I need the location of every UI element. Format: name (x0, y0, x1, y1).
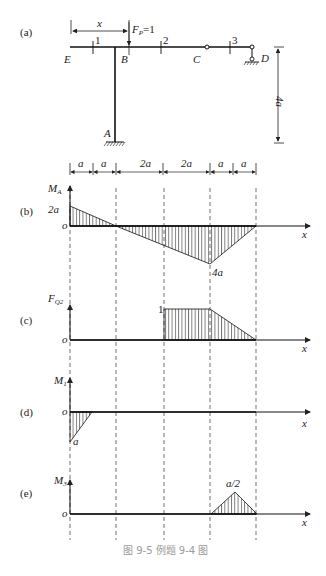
dim-5: a (241, 157, 247, 169)
panel-label-e: (e) (20, 487, 33, 500)
dim-1: a (101, 157, 107, 169)
section-3: 3 (232, 34, 238, 46)
value-a-half: a/2 (226, 477, 241, 489)
load-label: FP=1 (131, 23, 155, 37)
hinge-D-icon (250, 45, 254, 49)
origin-c: o (62, 333, 68, 345)
influence-line-FQ2: (c) FQ2 o 1 x (20, 292, 310, 354)
height-dimension: 4a (274, 96, 286, 108)
dimension-row: a a 2a 2a a a (70, 157, 256, 175)
section-2: 2 (163, 34, 169, 46)
fixed-support-icon (104, 142, 125, 146)
section-1: 1 (95, 34, 101, 46)
dim-3: 2a (181, 157, 193, 169)
xlabel-c: x (301, 342, 307, 354)
value-2a: 2a (48, 203, 60, 215)
structure-panel: (a) x FP=1 1 2 3 E B C D A (20, 17, 286, 146)
dim-4: a (218, 157, 224, 169)
point-E: E (63, 53, 71, 65)
hinge-C-icon (205, 45, 209, 49)
origin-e: o (62, 507, 68, 519)
point-A: A (103, 127, 111, 139)
influence-line-MA: (b) MA 2a o x 4a (20, 182, 310, 278)
xlabel-d: x (301, 417, 307, 429)
origin-b: o (62, 219, 68, 231)
influence-line-figure: (a) x FP=1 1 2 3 E B C D A (0, 0, 326, 576)
panel-label-c: (c) (20, 314, 33, 327)
ylabel-b: MA (47, 182, 62, 196)
ylabel-e: M3 (53, 474, 67, 488)
xlabel-e: x (301, 516, 307, 528)
point-B: B (121, 53, 128, 65)
dim-2: 2a (140, 157, 152, 169)
ylabel-d: M1 (53, 374, 67, 388)
point-D: D (260, 52, 269, 64)
x-label: x (96, 17, 102, 29)
value-1: 1 (158, 303, 164, 315)
influence-line-M1: (d) M1 o a x (20, 374, 310, 447)
figure-caption: 图 9-5 例题 9-4 图 (123, 544, 208, 556)
origin-d: o (62, 405, 68, 417)
panel-label-d: (d) (20, 406, 33, 419)
point-C: C (193, 53, 201, 65)
dim-0: a (78, 157, 84, 169)
xlabel-b: x (301, 228, 307, 240)
influence-line-M3: (e) M3 o a/2 x (20, 474, 310, 528)
value-a: a (73, 435, 79, 447)
roller-support-icon (250, 57, 254, 61)
value-4a: 4a (212, 266, 224, 278)
panel-label-a: (a) (20, 26, 33, 39)
ylabel-c: FQ2 (47, 292, 64, 306)
panel-label-b: (b) (20, 205, 33, 218)
